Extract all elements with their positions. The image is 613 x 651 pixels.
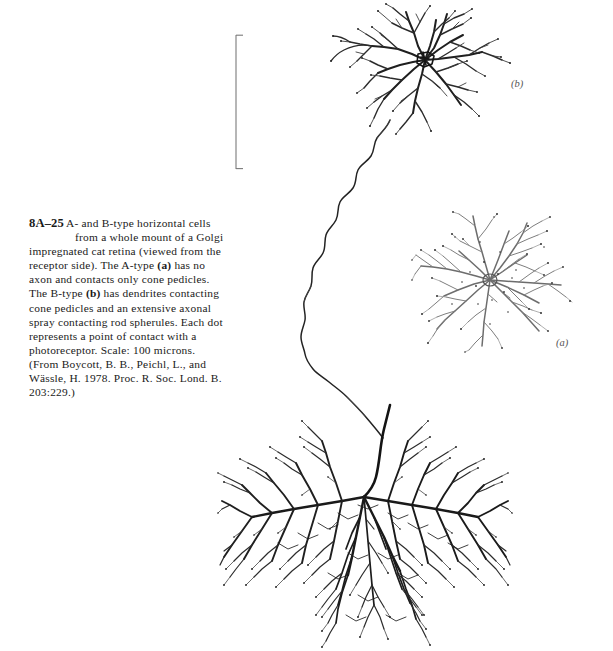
axon bbox=[295, 110, 415, 440]
caption-bold-a: (a) bbox=[157, 259, 171, 271]
caption-bold-b: (b) bbox=[86, 287, 101, 299]
figure-number: 8A–25 bbox=[29, 216, 64, 230]
figure-caption: 8A–25A- and B-type horizontal cells from… bbox=[29, 216, 226, 399]
panel-label-a: (a) bbox=[556, 337, 568, 348]
caption-line-1: A- and B-type horizontal cells bbox=[66, 217, 211, 229]
figure-page: (b) (a) 8A–25A- and B-type horizontal ce… bbox=[0, 0, 613, 651]
caption-body-3: has dendrites contacting cone pedicles a… bbox=[29, 287, 223, 398]
panel-label-b: (b) bbox=[511, 78, 523, 89]
axonal-spray bbox=[218, 405, 513, 647]
dendritic-field-a bbox=[412, 212, 572, 352]
scale-bar bbox=[230, 32, 244, 172]
caption-line-2: from a whole mount of a Golgi bbox=[29, 230, 226, 244]
